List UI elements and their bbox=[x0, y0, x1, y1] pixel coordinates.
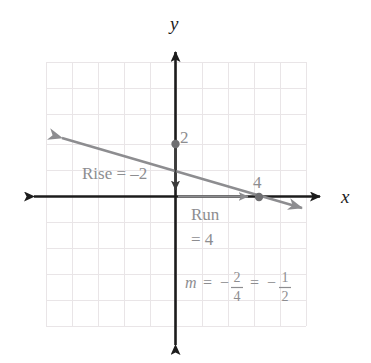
slope-graph-figure: y x 2 4 Rise = –2 Run = 4 m = − 2 4 = − … bbox=[0, 0, 371, 363]
run-annotation-line1: Run bbox=[191, 205, 220, 224]
formula-fraction2-numerator: 1 bbox=[282, 270, 289, 285]
slope-formula: m = − 2 4 = − 1 2 bbox=[185, 270, 291, 304]
formula-fraction1-denominator: 4 bbox=[234, 289, 241, 304]
formula-fraction1-numerator: 2 bbox=[234, 270, 241, 285]
run-annotation-line2: = 4 bbox=[191, 230, 214, 249]
y-intercept-label: 2 bbox=[180, 128, 189, 147]
formula-equals-1: = bbox=[203, 274, 212, 291]
formula-equals-2: = bbox=[250, 274, 259, 291]
formula-variable: m bbox=[185, 274, 197, 291]
point-x-intercept bbox=[255, 193, 263, 201]
formula-fraction2-denominator: 2 bbox=[282, 289, 289, 304]
coordinate-plane-svg: y x 2 4 Rise = –2 Run = 4 m = − 2 4 = − … bbox=[0, 0, 371, 363]
point-y-intercept bbox=[171, 140, 179, 148]
y-axis-label: y bbox=[168, 13, 179, 34]
rise-annotation: Rise = –2 bbox=[82, 164, 147, 183]
formula-sign-2: − bbox=[267, 274, 276, 291]
x-axis-label: x bbox=[340, 186, 350, 207]
formula-sign-1: − bbox=[220, 274, 229, 291]
x-intercept-label: 4 bbox=[253, 173, 262, 192]
